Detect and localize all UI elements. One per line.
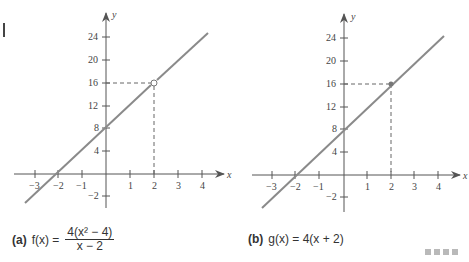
tick-label: 2 [389, 181, 394, 192]
tick-label: −3 [29, 180, 40, 191]
tick-label: −1 [76, 180, 87, 191]
tick-label: 1 [128, 180, 133, 191]
panel-b-function: g(x) = 4(x + 2) [268, 232, 343, 246]
panel-b-caption: (b) g(x) = 4(x + 2) [248, 232, 344, 246]
tick-label: −2 [326, 191, 337, 202]
decorative-square [425, 249, 431, 255]
tick-label: 4 [200, 180, 205, 191]
tick-label: −2 [88, 190, 99, 201]
tick-label: 24 [88, 31, 98, 42]
graphs: x y −3 −2 −1 1 2 3 4 24 20 16 12 8 4 −2 [0, 0, 469, 262]
tick-label: 4 [332, 146, 337, 157]
tick-label: 8 [332, 123, 337, 134]
tick-label: −1 [313, 181, 324, 192]
panel-a-denominator: x − 2 [75, 240, 105, 253]
tick-label: 12 [88, 100, 98, 111]
decorative-square [452, 249, 458, 255]
tick-label: 24 [326, 32, 336, 43]
tick-label: 20 [326, 55, 336, 66]
panel-a-x-label: x [226, 169, 232, 180]
panel-a-fraction: 4(x² − 4) x − 2 [65, 226, 114, 253]
tick-label: 20 [88, 54, 98, 65]
tick-label: −2 [290, 181, 301, 192]
tick-label: 12 [326, 101, 336, 112]
panel-b-tag: (b) [248, 232, 263, 246]
decorative-square [443, 249, 449, 255]
tick-label: 16 [326, 78, 336, 89]
panel-a-y-label: y [111, 9, 117, 20]
tick-label: 2 [152, 180, 157, 191]
panel-b-y-label: y [350, 11, 356, 22]
panel-a-numerator: 4(x² − 4) [65, 226, 114, 240]
panel-a-graph: x y −3 −2 −1 1 2 3 4 24 20 16 12 8 4 −2 [14, 9, 232, 208]
tick-label: 4 [436, 181, 441, 192]
panel-a-open-circle [151, 80, 157, 86]
panel-a-tag: (a) [12, 233, 27, 247]
panel-b-filled-point [389, 82, 394, 87]
tick-label: 8 [94, 122, 99, 133]
panel-b-x-label: x [462, 170, 468, 181]
tick-label: 3 [176, 180, 181, 191]
tick-label: 4 [94, 145, 99, 156]
tick-label: 1 [365, 181, 370, 192]
tick-label: 3 [412, 181, 417, 192]
tick-label: −3 [266, 181, 277, 192]
panel-a-function: f(x) = [32, 233, 60, 247]
decorative-square [434, 249, 440, 255]
panel-a-caption: (a) f(x) = 4(x² − 4) x − 2 [12, 226, 114, 253]
panel-b-graph: x y −3 −2 −1 1 2 3 4 24 20 16 12 8 4 −2 [252, 11, 468, 212]
panel-a-curve [157, 33, 208, 80]
tick-label: 16 [88, 77, 98, 88]
tick-label: −2 [53, 180, 64, 191]
